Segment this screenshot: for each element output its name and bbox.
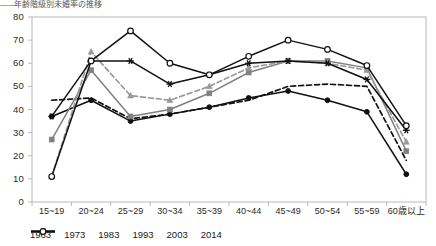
series-1973 (52, 84, 407, 160)
data-point-marker (89, 68, 94, 73)
data-point-marker (40, 229, 46, 235)
legend-label: 1973 (64, 229, 85, 240)
data-point-marker (168, 107, 173, 112)
series-1963 (49, 89, 408, 177)
legend-item-2003[interactable]: 2003 (167, 229, 188, 240)
data-point-marker (286, 89, 291, 94)
data-point-marker (404, 149, 409, 154)
data-point-marker (246, 70, 251, 75)
data-point-marker (167, 60, 173, 66)
legend-item-2014[interactable]: 2014 (201, 229, 222, 240)
series-line-1993 (52, 52, 407, 177)
series-line-2003 (52, 61, 407, 130)
data-point-marker (49, 174, 55, 180)
series-2003 (48, 58, 409, 133)
data-point-marker (364, 63, 370, 69)
data-point-marker (325, 47, 331, 53)
series-1993 (49, 49, 409, 179)
series-line-1973 (52, 84, 407, 160)
legend-item-1973[interactable]: 1973 (64, 229, 85, 240)
chart-legend: 196319731983199320032014 (30, 226, 420, 242)
legend-label: 2014 (201, 229, 222, 240)
data-point-marker (49, 137, 54, 142)
legend-label: 1993 (132, 229, 153, 240)
chart-root: ——年齢階級別未婚率の推移 80706050403020100 15~1920~… (0, 0, 436, 246)
data-point-marker (285, 37, 291, 43)
data-point-marker (246, 54, 252, 60)
data-point-marker (128, 28, 134, 34)
data-point-marker (325, 98, 330, 103)
data-point-marker (88, 49, 94, 54)
data-point-marker (404, 172, 409, 177)
data-point-marker (365, 109, 370, 114)
legend-label: 1983 (98, 229, 119, 240)
data-point-marker (88, 58, 94, 64)
data-point-marker (207, 72, 213, 78)
data-point-marker (404, 123, 410, 129)
legend-item-1983[interactable]: 1983 (98, 229, 119, 240)
legend-label: 2003 (167, 229, 188, 240)
legend-item-1993[interactable]: 1993 (132, 229, 153, 240)
data-point-marker (207, 91, 212, 96)
legend-key-line-marker-open-circle-solid-black (30, 226, 56, 237)
data-point-marker (128, 114, 133, 119)
plot-canvas (0, 0, 436, 246)
